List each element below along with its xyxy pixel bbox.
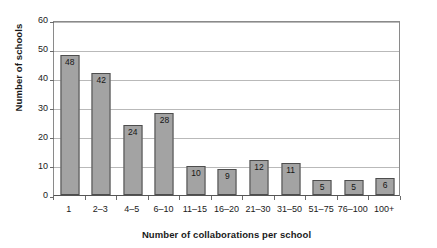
bar[interactable]: 5 xyxy=(344,180,363,195)
x-axis-tick-label: 11–15 xyxy=(179,204,211,214)
bar[interactable]: 42 xyxy=(92,73,111,196)
bar-value-label: 11 xyxy=(282,166,299,175)
x-axis-tick-mark xyxy=(211,196,212,200)
bar[interactable]: 24 xyxy=(123,125,142,195)
x-axis-tick-mark xyxy=(179,196,180,200)
bar-slot: 9 xyxy=(212,22,244,195)
bar-value-label: 42 xyxy=(93,76,110,85)
bars-layer: 484224281091211556 xyxy=(54,22,399,195)
bar-value-label: 9 xyxy=(219,172,236,181)
y-axis-tick-label: 40 xyxy=(28,74,48,83)
bar-slot: 5 xyxy=(306,22,338,195)
x-axis-tick-mark xyxy=(368,196,369,200)
bar-value-label: 24 xyxy=(124,128,141,137)
x-axis-tick-label: 31–50 xyxy=(274,204,306,214)
bar-value-label: 5 xyxy=(345,183,362,192)
bar-value-label: 10 xyxy=(187,169,204,178)
bar-value-label: 5 xyxy=(314,183,331,192)
bar[interactable]: 12 xyxy=(250,160,269,195)
x-axis-tick-mark xyxy=(85,196,86,200)
x-axis-tick-label: 100+ xyxy=(368,204,400,214)
bar[interactable]: 28 xyxy=(155,113,174,195)
x-axis-tick-label: 4–5 xyxy=(116,204,148,214)
x-axis-tick-mark xyxy=(53,196,54,200)
x-axis-tick-mark xyxy=(400,196,401,200)
bar[interactable]: 10 xyxy=(186,166,205,195)
bar[interactable]: 48 xyxy=(60,55,79,195)
x-axis-tick-label: 21–30 xyxy=(242,204,274,214)
x-axis-tick-mark xyxy=(274,196,275,200)
bar-slot: 28 xyxy=(149,22,181,195)
bar[interactable]: 9 xyxy=(218,169,237,195)
bar-slot: 5 xyxy=(338,22,370,195)
y-axis-tick-label: 60 xyxy=(28,16,48,25)
x-axis-tick-mark xyxy=(305,196,306,200)
bar-slot: 6 xyxy=(369,22,401,195)
y-axis-tick-labels: 0102030405060 xyxy=(26,21,48,196)
bar-value-label: 28 xyxy=(156,116,173,125)
y-axis-title: Number of schools xyxy=(13,0,24,148)
x-axis-tick-mark xyxy=(242,196,243,200)
bar-chart: Number of schools 0102030405060 48422428… xyxy=(0,0,437,248)
x-axis-tick-label: 51–75 xyxy=(305,204,337,214)
bar[interactable]: 6 xyxy=(376,178,395,196)
bar-slot: 42 xyxy=(86,22,118,195)
bar-slot: 10 xyxy=(180,22,212,195)
x-axis-tick-label: 76–100 xyxy=(337,204,369,214)
bar-slot: 11 xyxy=(275,22,307,195)
y-axis-tick-label: 50 xyxy=(28,45,48,54)
y-axis-tick-label: 0 xyxy=(28,191,48,200)
bar-slot: 48 xyxy=(54,22,86,195)
y-axis-tick-label: 30 xyxy=(28,104,48,113)
bar[interactable]: 11 xyxy=(281,163,300,195)
y-axis-tick-label: 10 xyxy=(28,162,48,171)
x-axis-tick-label: 2–3 xyxy=(85,204,117,214)
x-axis-tick-mark xyxy=(337,196,338,200)
bar-slot: 24 xyxy=(117,22,149,195)
x-axis-title: Number of collaborations per school xyxy=(53,229,400,240)
bar-value-label: 48 xyxy=(61,58,78,67)
bar-slot: 12 xyxy=(243,22,275,195)
x-axis-tick-label: 16–20 xyxy=(211,204,243,214)
x-axis-tick-label: 1 xyxy=(53,204,85,214)
plot-area: 484224281091211556 xyxy=(53,21,400,196)
x-axis-tick-label: 6–10 xyxy=(148,204,180,214)
x-axis-tick-mark xyxy=(116,196,117,200)
bar-value-label: 6 xyxy=(377,181,394,190)
x-axis-tick-mark xyxy=(148,196,149,200)
bar[interactable]: 5 xyxy=(313,180,332,195)
y-axis-tick-label: 20 xyxy=(28,133,48,142)
bar-value-label: 12 xyxy=(251,163,268,172)
